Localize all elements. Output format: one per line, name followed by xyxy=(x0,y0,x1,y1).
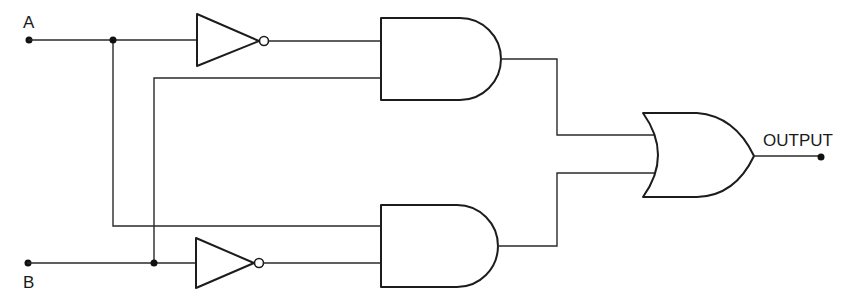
not-gate-b xyxy=(196,238,264,288)
junction-b xyxy=(151,260,158,267)
output-label: OUTPUT xyxy=(763,131,833,150)
and-gate-bottom xyxy=(381,205,498,287)
wire-a xyxy=(29,40,381,226)
wire-and-bottom-out xyxy=(498,173,661,246)
wire-and-top-out xyxy=(501,59,661,135)
wire-b xyxy=(28,78,381,263)
input-b-label: B xyxy=(23,273,34,292)
or-gate xyxy=(643,113,754,197)
and-gate-top xyxy=(381,18,501,100)
not-gate-a xyxy=(197,14,269,66)
logic-circuit-diagram: A B OUTPUT xyxy=(0,0,854,302)
input-a-label: A xyxy=(23,13,35,32)
junction-a xyxy=(110,37,117,44)
output-terminal xyxy=(818,154,825,161)
